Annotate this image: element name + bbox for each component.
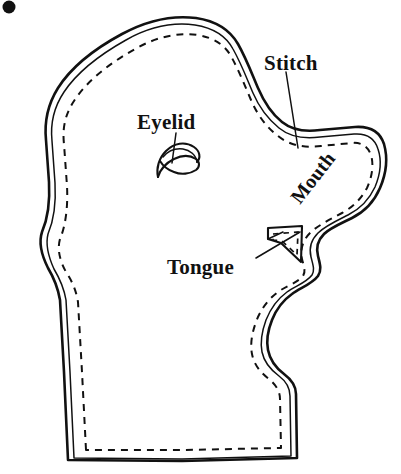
label-mouth: Mouth: [286, 148, 340, 208]
pattern-diagram: Eyelid Stitch Mouth Tongue: [0, 0, 401, 474]
dashed-seam-line: [59, 34, 373, 450]
corner-dot-mark: [3, 1, 16, 14]
diagram-canvas: Eyelid Stitch Mouth Tongue: [0, 0, 401, 474]
label-eyelid: Eyelid: [137, 110, 195, 134]
outline-inner-stroke: [47, 24, 380, 459]
stitch-leader-line: [286, 72, 298, 148]
tongue-triangle: [268, 226, 302, 262]
eyelid-crescent: [157, 144, 199, 177]
label-stitch: Stitch: [264, 51, 318, 75]
outline-outer-stroke: [40, 17, 386, 461]
head-profile-outline: [40, 17, 386, 461]
label-tongue: Tongue: [167, 255, 234, 279]
